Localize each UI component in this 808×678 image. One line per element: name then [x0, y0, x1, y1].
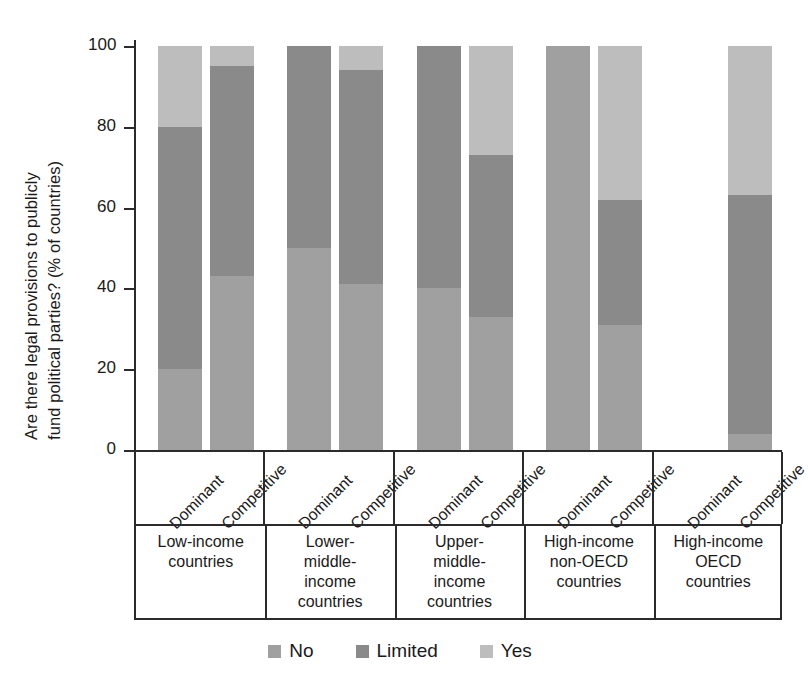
- legend-item-limited[interactable]: Limited: [356, 640, 438, 662]
- bar-stack: [728, 46, 772, 450]
- bar-segment-no: [210, 276, 254, 450]
- bar-segment-no: [728, 434, 772, 450]
- bar-segment-limited: [417, 46, 461, 288]
- legend-swatch-icon: [480, 645, 493, 658]
- bar-stack: [339, 46, 383, 450]
- x-axis-line: [134, 450, 782, 452]
- bar-segment-no: [158, 369, 202, 450]
- group-boundary-tick: [781, 452, 783, 524]
- y-axis-tick-label: 100: [88, 35, 116, 55]
- legend-label: Limited: [377, 640, 438, 662]
- plot-area: [135, 46, 780, 450]
- bar-stack: [158, 46, 202, 450]
- bar-segment-yes: [598, 46, 642, 200]
- bar-segment-no: [417, 288, 461, 450]
- legend-label: No: [289, 640, 313, 662]
- group-label: Low-incomecountries: [136, 532, 265, 572]
- group-label: Lower-middle-incomecountries: [265, 532, 394, 612]
- bar-segment-limited: [287, 46, 331, 248]
- y-axis-title-line1: Are there legal provisions to publicly: [20, 172, 43, 440]
- bar-segment-no: [339, 284, 383, 450]
- bar-segment-no: [287, 248, 331, 450]
- bar-segment-yes: [210, 46, 254, 66]
- y-axis-tick-label: 60: [88, 197, 116, 217]
- bar-segment-no: [469, 317, 513, 450]
- group-label-row: Low-incomecountriesLower-middle-incomeco…: [134, 524, 782, 620]
- bar-segment-limited: [469, 155, 513, 317]
- y-axis-tick: [124, 208, 135, 210]
- bar-stack: [287, 46, 331, 450]
- bar-segment-yes: [339, 46, 383, 70]
- chart-legend: NoLimitedYes: [0, 640, 800, 662]
- x-axis-label-competitive: Competitive: [606, 460, 678, 532]
- group-label: High-incomenon-OECDcountries: [524, 532, 653, 592]
- group-boundary-tick: [393, 452, 395, 524]
- group-boundary-tick: [263, 452, 265, 524]
- y-axis-tick: [124, 288, 135, 290]
- group-boundary-tick: [652, 452, 654, 524]
- y-axis-tick-label: 0: [88, 439, 116, 459]
- y-axis-title: Are there legal provisions to publicly f…: [0, 0, 62, 455]
- bar-stack: [676, 46, 720, 450]
- bar-stack: [598, 46, 642, 450]
- y-axis-tick-label: 40: [88, 277, 116, 297]
- x-axis-label-competitive: Competitive: [477, 460, 549, 532]
- y-axis-title-line2: fund political parties? (% of countries): [43, 161, 66, 440]
- y-axis-tick: [124, 127, 135, 129]
- bar-segment-limited: [158, 127, 202, 369]
- x-axis-label-competitive: Competitive: [736, 460, 808, 532]
- legend-item-no[interactable]: No: [268, 640, 313, 662]
- bar-segment-limited: [598, 200, 642, 325]
- bar-segment-limited: [728, 195, 772, 433]
- legend-swatch-icon: [268, 645, 281, 658]
- bar-segment-yes: [469, 46, 513, 155]
- bar-segment-limited: [210, 66, 254, 276]
- group-boundary-tick: [522, 452, 524, 524]
- bar-segment-yes: [728, 46, 772, 195]
- y-axis-tick-label: 80: [88, 116, 116, 136]
- bar-stack: [210, 46, 254, 450]
- group-label: Upper-middle-incomecountries: [395, 532, 524, 612]
- y-axis-tick-label: 20: [88, 358, 116, 378]
- y-axis-tick: [124, 46, 135, 48]
- bar-segment-yes: [158, 46, 202, 127]
- y-axis-tick: [124, 369, 135, 371]
- legend-item-yes[interactable]: Yes: [480, 640, 532, 662]
- bar-segment-no: [598, 325, 642, 450]
- x-axis-label-competitive: Competitive: [218, 460, 290, 532]
- legend-label: Yes: [501, 640, 532, 662]
- bar-segment-no: [546, 46, 590, 450]
- bar-stack: [546, 46, 590, 450]
- x-axis-label-competitive: Competitive: [347, 460, 419, 532]
- legend-swatch-icon: [356, 645, 369, 658]
- group-label: High-incomeOECDcountries: [654, 532, 783, 592]
- bar-segment-limited: [339, 70, 383, 284]
- bar-stack: [469, 46, 513, 450]
- bar-stack: [417, 46, 461, 450]
- group-boundary-tick: [134, 452, 136, 524]
